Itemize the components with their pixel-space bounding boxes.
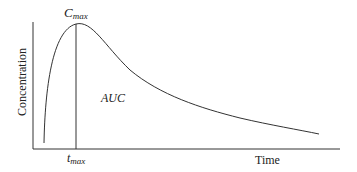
y-axis-label: Concentration xyxy=(15,48,29,116)
concentration-time-diagram: Cmax tmax AUC Time Concentration xyxy=(0,0,357,172)
x-axis-label: Time xyxy=(255,153,280,167)
tmax-label: tmax xyxy=(67,151,85,166)
auc-label: AUC xyxy=(100,91,126,105)
concentration-curve xyxy=(44,24,319,143)
cmax-label: Cmax xyxy=(64,5,88,21)
